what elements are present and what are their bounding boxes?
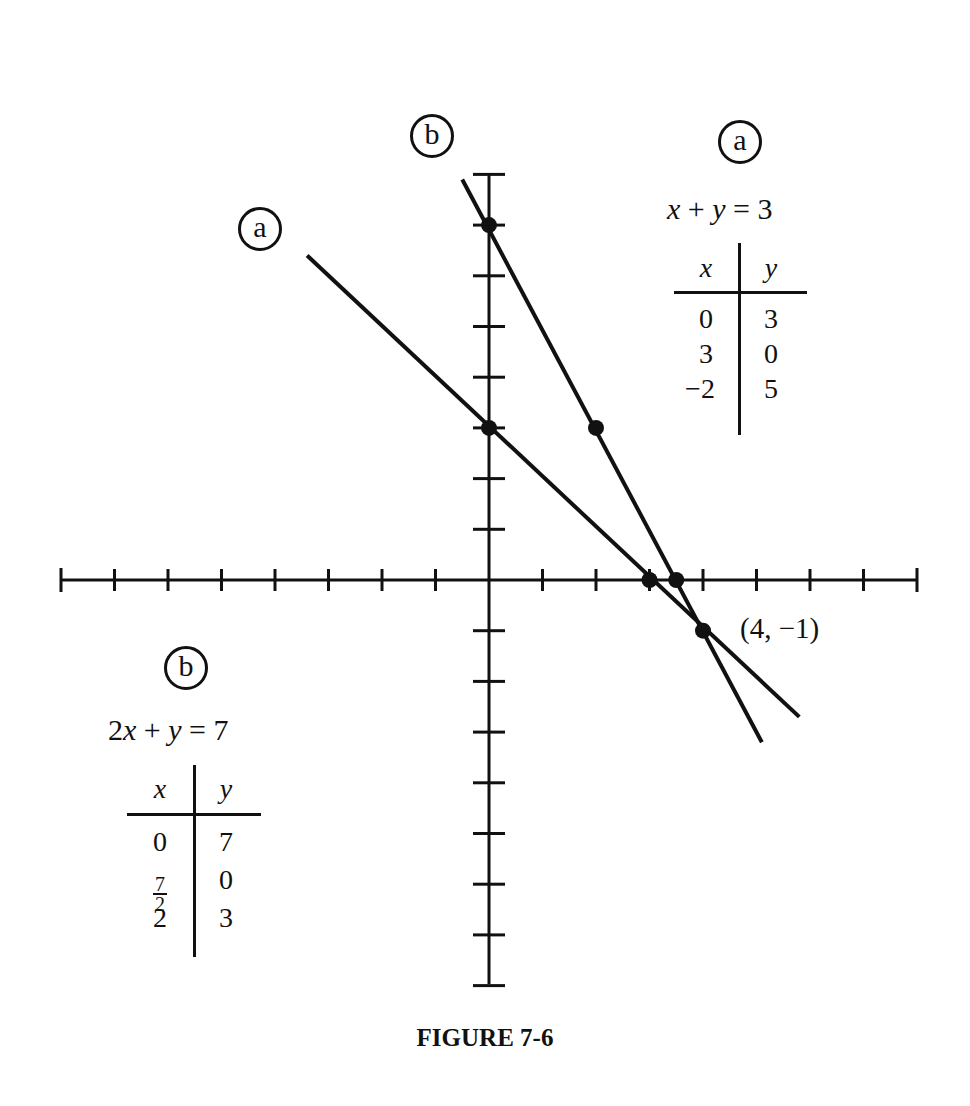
data-point: [481, 217, 497, 233]
eq-b-plus: +: [136, 713, 168, 746]
equation-a: x + y = 3: [667, 192, 773, 226]
table-b-x-0: 0: [130, 826, 190, 858]
table-a-header-x: x: [676, 252, 736, 284]
fraction-numerator: 7: [155, 875, 165, 893]
eq-a-x: x: [667, 192, 680, 225]
table-a-x-1: 3: [676, 338, 736, 370]
table-b-x-2: 2: [130, 902, 190, 934]
eq-a-plus: +: [680, 192, 712, 225]
table-a-tag: a: [718, 120, 762, 164]
data-point: [668, 572, 684, 588]
intersection-label: (4, −1): [740, 612, 819, 645]
line-b-tag: b: [410, 114, 454, 158]
table-a-tag-text: a: [733, 125, 746, 155]
equation-b: 2x + y = 7: [108, 713, 229, 747]
figure-caption: FIGURE 7-6: [0, 1024, 970, 1052]
table-b-tag: b: [164, 646, 208, 690]
table-a-header-y: y: [741, 252, 801, 284]
table-b-header-y: y: [196, 773, 256, 805]
data-point: [588, 420, 604, 436]
coordinate-plane: [0, 0, 970, 1106]
data-point: [481, 420, 497, 436]
data-point: [642, 572, 658, 588]
data-point: [695, 623, 711, 639]
table-b-y-0: 7: [196, 826, 256, 858]
table-a-x-0: 0: [676, 303, 736, 335]
eq-b-y: y: [168, 713, 181, 746]
table-a-y-2: 5: [741, 373, 801, 405]
line-a-tag-text: a: [253, 212, 266, 242]
table-a-horizontal-rule: [674, 291, 807, 294]
table-a-y-1: 0: [741, 338, 801, 370]
table-a-y-0: 3: [741, 303, 801, 335]
table-b-y-1: 0: [196, 864, 256, 896]
table-b-tag-text: b: [179, 651, 194, 681]
table-b-y-2: 3: [196, 902, 256, 934]
table-b-horizontal-rule: [127, 813, 261, 816]
table-b-header-x: x: [130, 773, 190, 805]
table-a-x-2: −2: [670, 373, 730, 405]
eq-b-coef: 2: [108, 713, 123, 746]
eq-a-rhs: = 3: [726, 192, 773, 225]
eq-a-y: y: [712, 192, 725, 225]
eq-b-rhs: = 7: [182, 713, 229, 746]
eq-b-x: x: [123, 713, 136, 746]
line-b-tag-text: b: [425, 119, 440, 149]
line-a-tag: a: [238, 207, 282, 251]
